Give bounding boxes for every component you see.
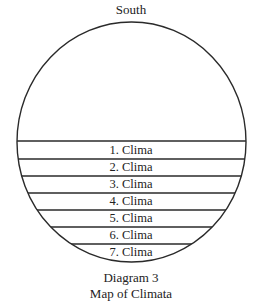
band-labels: 1. Clima 2. Clima 3. Clima 4. Clima 5. C… <box>109 143 153 259</box>
band-label-6: 6. Clima <box>109 228 153 242</box>
band-label-3: 3. Clima <box>109 177 153 191</box>
direction-label: South <box>116 2 147 17</box>
band-label-1: 1. Clima <box>109 143 153 157</box>
caption-subtitle: Map of Climata <box>90 286 173 301</box>
band-label-2: 2. Clima <box>109 160 153 174</box>
band-label-4: 4. Clima <box>109 194 153 208</box>
caption-title: Diagram 3 <box>103 270 158 285</box>
band-label-7: 7. Clima <box>109 245 153 259</box>
climata-diagram: South 1. Clima 2. Clima 3. Clima 4. Clim… <box>0 0 258 306</box>
globe-outline <box>17 22 246 262</box>
band-label-5: 5. Clima <box>109 211 153 225</box>
